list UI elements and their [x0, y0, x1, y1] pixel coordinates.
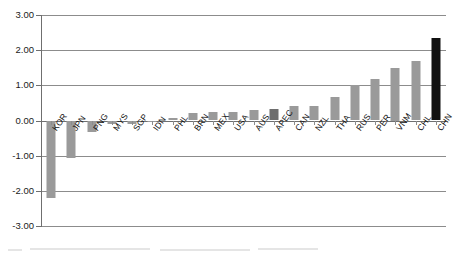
y-tick-mark — [36, 15, 42, 16]
bar-chl[interactable] — [411, 61, 420, 121]
y-axis-tick-label: 0.00 — [0, 115, 34, 126]
y-tick-mark — [36, 121, 42, 122]
y-axis-tick-label: 3.00 — [0, 9, 34, 20]
y-tick-mark — [36, 50, 42, 51]
y-axis-tick-label: -2.00 — [0, 185, 34, 196]
y-axis-tick-label: -1.00 — [0, 150, 34, 161]
bar-chart: 3.002.001.000.00-1.00-2.00-3.00 KORJPNPN… — [0, 0, 454, 259]
bar-vnm[interactable] — [391, 68, 400, 121]
y-tick-mark — [36, 85, 42, 86]
bar-per[interactable] — [371, 79, 380, 121]
y-axis-tick-label: 2.00 — [0, 44, 34, 55]
bar-aus[interactable] — [249, 110, 258, 120]
y-axis-tick-label: 1.00 — [0, 79, 34, 90]
y-tick-mark — [36, 191, 42, 192]
bar-tha[interactable] — [330, 97, 339, 121]
y-axis-tick-label: -3.00 — [0, 220, 34, 231]
y-tick-mark — [36, 226, 42, 227]
gridline-neg3.00 — [41, 226, 446, 227]
y-tick-mark — [36, 156, 42, 157]
bar-kor[interactable] — [47, 121, 56, 198]
bar-chn[interactable] — [431, 38, 440, 120]
bar-rus[interactable] — [350, 85, 359, 120]
page-edge-artifact — [0, 247, 454, 252]
